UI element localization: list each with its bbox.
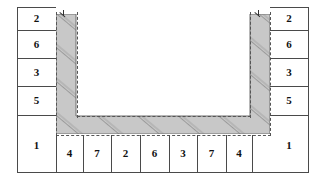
left-cell-4: 5 xyxy=(17,86,56,115)
bottom-row-top-rule-right xyxy=(270,115,308,116)
dashed-line-right-inner xyxy=(250,12,251,118)
bottom-cell-7: 7 xyxy=(197,135,226,172)
right-cell-4: 5 xyxy=(270,86,308,115)
dashed-line-inner-floor xyxy=(77,116,251,117)
left-cell-3: 3 xyxy=(17,58,56,86)
bottom-row-sep-8 xyxy=(252,135,253,172)
bottom-cell-3: 7 xyxy=(83,135,111,172)
left-cell-1: 2 xyxy=(17,7,56,30)
right-cell-2: 6 xyxy=(270,30,308,58)
bottom-cell-5: 6 xyxy=(140,135,169,172)
left-cell-2: 6 xyxy=(17,30,56,58)
frame-bottom-border xyxy=(17,172,309,173)
bottom-row-top-rule-left xyxy=(17,115,56,116)
dashed-line-left-inner xyxy=(77,12,78,118)
bottom-cell-1: 1 xyxy=(17,118,56,172)
bottom-cell-4: 2 xyxy=(111,135,140,172)
diagram-canvas: 2 6 3 5 2 6 3 5 1 4 7 2 6 3 7 4 1 xyxy=(0,0,327,183)
right-cell-3: 3 xyxy=(270,58,308,86)
bottom-cell-8: 4 xyxy=(226,135,252,172)
bottom-cell-6: 3 xyxy=(169,135,197,172)
dashed-line-left-outer xyxy=(56,12,57,136)
bottom-cell-9: 1 xyxy=(270,118,308,172)
right-cell-1: 2 xyxy=(270,7,308,30)
frame-right-border xyxy=(308,7,309,172)
bottom-cell-2: 4 xyxy=(56,135,83,172)
